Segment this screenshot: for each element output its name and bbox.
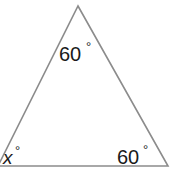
angle-bottom-right-value: 60 xyxy=(117,146,139,168)
angle-top-degree: ° xyxy=(86,39,91,54)
angle-top-value: 60 xyxy=(59,43,81,65)
angle-bottom-right-degree: ° xyxy=(143,142,148,157)
angle-bottom-left-degree: ° xyxy=(15,143,20,158)
angle-bottom-left-variable: x xyxy=(2,147,14,168)
triangle-diagram: 60 ° x ° 60 ° xyxy=(0,0,180,176)
